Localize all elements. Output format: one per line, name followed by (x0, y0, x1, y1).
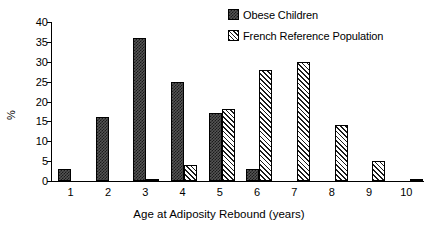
bar-groups (52, 22, 429, 181)
bar-obese-children-1 (58, 169, 71, 181)
y-axis-tickmark-15 (47, 121, 51, 122)
bar-group-9 (354, 22, 392, 181)
bar-french-reference-population-10 (410, 179, 423, 181)
bar-group-1 (52, 22, 90, 181)
bar-obese-children-6 (246, 169, 259, 181)
y-axis-tick-35: 35 (22, 36, 48, 47)
bar-group-8 (316, 22, 354, 181)
y-axis-tickmark-0 (47, 181, 51, 182)
bar-french-reference-population-3 (146, 179, 159, 181)
y-axis-tick-10: 10 (22, 136, 48, 147)
x-axis-tick-9: 9 (350, 186, 387, 198)
y-axis-tick-5: 5 (22, 156, 48, 167)
chart-axes (51, 22, 429, 182)
bar-obese-children-4 (171, 82, 184, 181)
x-axis-tick-8: 8 (313, 186, 350, 198)
bar-french-reference-population-9 (372, 161, 385, 181)
bar-obese-children-3 (133, 38, 146, 181)
y-axis-tickmark-40 (47, 22, 51, 23)
bar-group-7 (278, 22, 316, 181)
bar-french-reference-population-7 (297, 62, 310, 181)
y-axis-tick-40: 40 (22, 17, 48, 28)
x-axis-tick-6: 6 (238, 186, 275, 198)
y-axis-label: % (5, 110, 17, 120)
x-axis-tick-2: 2 (89, 186, 126, 198)
x-axis-line (51, 181, 424, 182)
x-axis-label: Age at Adiposity Rebound (years) (0, 208, 438, 220)
bar-group-4 (165, 22, 203, 181)
bar-french-reference-population-6 (259, 70, 272, 181)
bar-group-5 (203, 22, 241, 181)
y-axis-tick-labels: 0510152025303540 (22, 22, 48, 182)
y-axis-tick-0: 0 (22, 176, 48, 187)
y-axis-tickmark-5 (47, 161, 51, 162)
x-axis-tick-10: 10 (388, 186, 425, 198)
checkered-swatch-icon (228, 9, 239, 20)
bar-group-6 (241, 22, 279, 181)
bar-french-reference-population-5 (222, 109, 235, 181)
y-axis-tick-20: 20 (22, 96, 48, 107)
bar-obese-children-2 (96, 117, 109, 181)
bar-french-reference-population-8 (335, 125, 348, 181)
y-axis-tickmark-10 (47, 141, 51, 142)
y-axis-tickmark-25 (47, 82, 51, 83)
x-axis-tick-1: 1 (52, 186, 89, 198)
y-axis-tickmark-35 (47, 42, 51, 43)
plot-area: % 0510152025303540 12345678910 Age at Ad… (0, 22, 438, 222)
y-axis-tick-15: 15 (22, 116, 48, 127)
y-axis-tick-25: 25 (22, 76, 48, 87)
bar-obese-children-5 (209, 113, 222, 181)
legend-item-obese-children: Obese Children (228, 6, 436, 23)
y-axis-tick-30: 30 (22, 56, 48, 67)
y-axis-tickmark-30 (47, 62, 51, 63)
bar-group-3 (127, 22, 165, 181)
x-axis-tick-3: 3 (127, 186, 164, 198)
x-axis-tick-labels: 12345678910 (52, 186, 425, 198)
bar-french-reference-population-4 (184, 165, 197, 181)
legend-label-obese-children: Obese Children (243, 9, 318, 21)
y-axis-tickmark-20 (47, 102, 51, 103)
adiposity-rebound-bar-chart: Obese Children French Reference Populati… (0, 0, 438, 249)
bar-group-10 (391, 22, 429, 181)
bar-group-2 (90, 22, 128, 181)
x-axis-tick-7: 7 (276, 186, 313, 198)
x-axis-tick-5: 5 (201, 186, 238, 198)
x-axis-tick-4: 4 (164, 186, 201, 198)
